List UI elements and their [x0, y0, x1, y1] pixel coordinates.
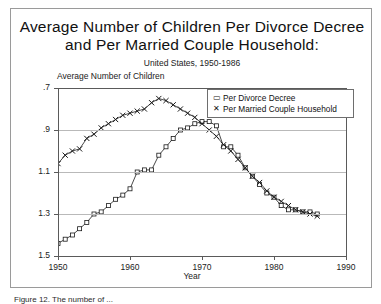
legend-label-divorce-decree: Per Divorce Decree: [223, 93, 295, 103]
figure-container: Average Number of Children Per Divorce D…: [0, 0, 381, 304]
y-axis-line: [58, 88, 59, 257]
figure-caption: Figure 12. The number of ...: [14, 295, 314, 304]
legend-item-married-couple-household: ✕ Per Married Couple Household: [211, 103, 350, 114]
x-axis-title: Year: [11, 271, 373, 281]
data-point-x: [171, 102, 176, 107]
series-line: [58, 122, 317, 244]
data-point-square: [207, 120, 211, 124]
data-point-square: [106, 204, 110, 208]
data-point-square: [171, 136, 175, 140]
chart-legend: ▭ Per Divorce Decree ✕ Per Married Coupl…: [207, 89, 354, 118]
y-tick-label: 1.3: [22, 208, 50, 218]
series-divorce-decree: [58, 120, 319, 246]
data-point-x: [63, 153, 68, 158]
chart-subtitle: United States, 1950-1986: [11, 58, 373, 68]
data-point-x: [185, 111, 190, 116]
y-tick-label: 1.1: [22, 166, 50, 176]
data-point-square: [286, 208, 290, 212]
data-point-x: [149, 100, 154, 105]
data-point-x: [142, 106, 147, 111]
data-point-x: [156, 96, 161, 101]
y-tick-label: 1.5: [22, 250, 50, 260]
data-point-x: [127, 111, 132, 116]
data-point-square: [114, 197, 118, 201]
x-marker-icon: ✕: [211, 103, 222, 114]
data-point-x: [135, 109, 140, 114]
data-point-x: [113, 117, 118, 122]
data-point-square: [214, 124, 218, 128]
data-point-square: [229, 145, 233, 149]
data-point-x: [91, 132, 96, 137]
y-axis-title: Average Number of Children: [57, 71, 165, 81]
data-point-square: [279, 204, 283, 208]
data-point-x: [106, 121, 111, 126]
data-point-square: [128, 187, 132, 191]
data-point-x: [120, 113, 125, 118]
data-point-x: [163, 98, 168, 103]
data-point-x: [77, 146, 82, 151]
legend-item-divorce-decree: ▭ Per Divorce Decree: [211, 92, 350, 103]
data-point-square: [236, 153, 240, 157]
chart-frame: Average Number of Children Per Divorce D…: [10, 8, 372, 288]
data-point-x: [192, 115, 197, 120]
y-tick-label: .7: [22, 82, 50, 92]
data-point-square: [85, 220, 89, 224]
data-point-square: [70, 233, 74, 237]
data-point-square: [164, 145, 168, 149]
gridline-y: [58, 130, 346, 131]
data-point-square: [63, 237, 67, 241]
data-point-square: [193, 122, 197, 126]
x-axis-line: [58, 256, 347, 257]
chart-title-line2: and Per Married Couple Household:: [11, 36, 373, 54]
data-point-square: [157, 153, 161, 157]
data-point-square: [78, 227, 82, 231]
gridline-y: [58, 172, 346, 173]
data-point-x: [84, 136, 89, 141]
data-point-x: [70, 148, 75, 153]
gridline-y: [58, 214, 346, 215]
data-point-square: [121, 193, 125, 197]
data-point-x: [178, 106, 183, 111]
chart-title-line1: Average Number of Children Per Divorce D…: [11, 18, 373, 36]
legend-label-married-couple-household: Per Married Couple Household: [223, 104, 337, 114]
y-tick-label: .9: [22, 124, 50, 134]
square-marker-icon: ▭: [211, 92, 222, 103]
data-point-x: [214, 134, 219, 139]
